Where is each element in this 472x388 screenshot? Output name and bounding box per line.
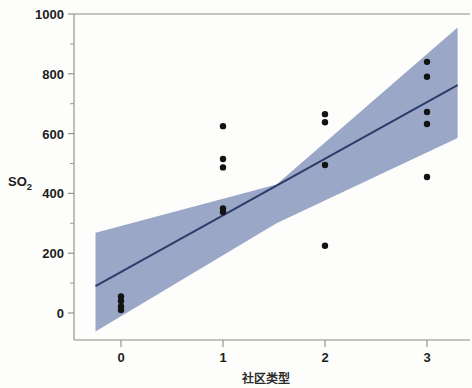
data-point	[220, 209, 226, 215]
y-tick-label-200: 200	[42, 246, 64, 261]
plot-data-layer	[96, 27, 458, 331]
data-point	[220, 123, 226, 129]
data-point	[118, 307, 124, 313]
y-axis-title-text: SO2	[8, 174, 32, 192]
y-axis-minor-ticks	[70, 44, 74, 283]
y-axis-title: SO2	[8, 174, 32, 192]
scatter-plot-figure: 1000 800 600 400 200 0 SO2 0 1 2 3 社区类型	[0, 0, 472, 388]
data-point	[220, 156, 226, 162]
data-point	[424, 74, 430, 80]
x-axis-tick-labels: 0 1 2 3	[117, 350, 430, 365]
data-point	[322, 162, 328, 168]
y-tick-label-400: 400	[42, 186, 64, 201]
y-axis-tick-labels: 1000 800 600 400 200 0	[35, 7, 64, 321]
data-point	[424, 59, 430, 65]
x-tick-label-0: 0	[117, 350, 124, 365]
data-point	[322, 243, 328, 249]
chart-canvas: 1000 800 600 400 200 0 SO2 0 1 2 3 社区类型	[0, 0, 472, 388]
y-axis-title-subscript: 2	[27, 181, 32, 192]
y-tick-label-800: 800	[42, 67, 64, 82]
confidence-band	[96, 27, 458, 331]
x-axis-ticks	[121, 340, 427, 347]
regression-line	[96, 85, 458, 286]
data-point	[424, 174, 430, 180]
x-tick-label-2: 2	[321, 350, 328, 365]
x-tick-label-1: 1	[219, 350, 226, 365]
y-tick-label-600: 600	[42, 127, 64, 142]
y-tick-label-0: 0	[57, 306, 64, 321]
y-axis-title-base: SO	[8, 174, 27, 189]
data-point	[220, 164, 226, 170]
x-tick-label-3: 3	[423, 350, 430, 365]
y-tick-label-1000: 1000	[35, 7, 64, 22]
x-axis-title: 社区类型	[241, 371, 290, 386]
data-point	[322, 119, 328, 125]
data-point	[424, 121, 430, 127]
data-point	[424, 109, 430, 115]
data-point	[322, 111, 328, 117]
